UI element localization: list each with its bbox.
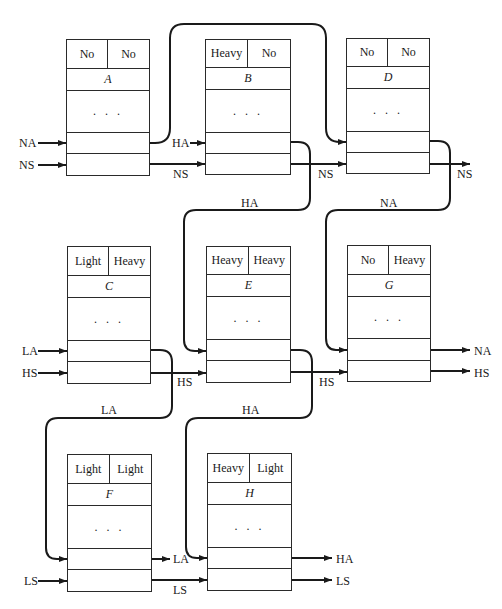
signal-label: LA <box>101 404 117 416</box>
name-row: B <box>206 68 290 90</box>
port-row-2 <box>206 154 290 175</box>
node-name: G <box>348 275 430 296</box>
signal-label: NA <box>19 137 36 149</box>
node-name: C <box>68 276 150 297</box>
signal-label: NS <box>318 168 333 180</box>
signal-label: LS <box>336 575 350 587</box>
port-row-1 <box>68 549 151 570</box>
port-row-2 <box>208 569 291 591</box>
signal-label: LS <box>24 575 38 587</box>
state-left: No <box>347 39 388 66</box>
body-row: . . . <box>348 297 430 339</box>
signal-label: NS <box>19 159 34 171</box>
node-name: A <box>67 69 149 90</box>
signal-label: NS <box>173 168 188 180</box>
state-row: No No <box>347 39 429 67</box>
ellipsis: . . . <box>207 297 290 339</box>
signal-label: HS <box>177 376 192 388</box>
signal-label: HA <box>242 404 259 416</box>
state-row: No No <box>67 40 149 69</box>
port-row-1 <box>347 132 429 153</box>
ellipsis: . . . <box>347 89 429 131</box>
name-row: E <box>207 275 290 297</box>
node-name: H <box>208 483 291 504</box>
state-right: No <box>388 39 429 66</box>
node-name: F <box>68 484 151 505</box>
node-name: E <box>207 275 290 296</box>
port-row-1 <box>208 548 291 569</box>
state-row: Heavy No <box>206 40 290 68</box>
state-left: No <box>348 246 389 274</box>
port-row-1 <box>348 339 430 361</box>
state-right: Heavy <box>109 247 150 275</box>
signal-label: HS <box>22 367 37 379</box>
ellipsis: . . . <box>208 505 291 547</box>
name-row: D <box>347 67 429 89</box>
state-row: Heavy Light <box>208 454 291 483</box>
node-a: No No A . . . <box>66 39 150 176</box>
name-row: G <box>348 275 430 297</box>
body-row: . . . <box>68 506 151 549</box>
port-row-2 <box>68 570 151 592</box>
state-right: No <box>108 40 149 68</box>
state-right: Light <box>250 454 292 482</box>
state-right: Heavy <box>249 247 291 274</box>
node-d: No No D . . . <box>346 38 430 174</box>
node-c: Light Heavy C . . . <box>67 246 151 384</box>
port-row-2 <box>67 154 149 176</box>
port-row-1 <box>206 133 290 154</box>
body-row: . . . <box>67 91 149 133</box>
port-row-2 <box>68 362 150 384</box>
state-right: No <box>248 40 290 67</box>
signal-label: HA <box>241 197 258 209</box>
node-name: D <box>347 67 429 88</box>
state-left: No <box>67 40 108 68</box>
port-row-2 <box>347 153 429 174</box>
state-right: Heavy <box>389 246 430 274</box>
signal-label: LA <box>22 345 38 357</box>
body-row: . . . <box>208 505 291 548</box>
ellipsis: . . . <box>206 90 290 132</box>
name-row: C <box>68 276 150 298</box>
signal-label: NA <box>380 197 397 209</box>
ellipsis: . . . <box>68 298 150 340</box>
state-row: Heavy Heavy <box>207 247 290 275</box>
body-row: . . . <box>206 90 290 133</box>
state-left: Heavy <box>208 454 250 482</box>
port-row-2 <box>207 361 290 383</box>
name-row: H <box>208 483 291 505</box>
node-f: Light Light F . . . <box>67 454 152 592</box>
node-g: No Heavy G . . . <box>347 245 431 382</box>
signal-label: HS <box>474 367 489 379</box>
state-right: Light <box>110 455 152 483</box>
state-row: No Heavy <box>348 246 430 275</box>
ellipsis: . . . <box>348 297 430 338</box>
signal-label: HS <box>319 376 334 388</box>
signal-label: LS <box>173 584 187 596</box>
node-b: Heavy No B . . . <box>205 39 291 175</box>
signal-label: LA <box>173 553 189 565</box>
signal-label: HA <box>172 137 189 149</box>
port-row-2 <box>348 361 430 382</box>
node-h: Heavy Light H . . . <box>207 453 292 591</box>
port-row-1 <box>207 340 290 361</box>
state-row: Light Heavy <box>68 247 150 276</box>
state-left: Heavy <box>206 40 248 67</box>
cell-network-diagram: No No A . . . Heavy No B . . . No No D .… <box>0 0 502 609</box>
body-row: . . . <box>68 298 150 341</box>
name-row: F <box>68 484 151 506</box>
node-name: B <box>206 68 290 89</box>
state-left: Light <box>68 455 110 483</box>
port-row-1 <box>67 133 149 154</box>
signal-label: NA <box>474 345 491 357</box>
ellipsis: . . . <box>67 91 149 132</box>
body-row: . . . <box>207 297 290 340</box>
state-row: Light Light <box>68 455 151 484</box>
state-left: Heavy <box>207 247 249 274</box>
body-row: . . . <box>347 89 429 132</box>
signal-label: NS <box>457 168 472 180</box>
signal-label: HA <box>336 553 353 565</box>
port-row-1 <box>68 341 150 362</box>
node-e: Heavy Heavy E . . . <box>206 246 291 383</box>
ellipsis: . . . <box>68 506 151 548</box>
